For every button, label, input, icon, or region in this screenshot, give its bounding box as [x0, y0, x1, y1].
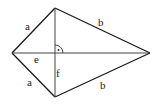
label-b-upper: b — [98, 16, 104, 28]
side-upper-right — [55, 8, 150, 53]
label-a-upper: a — [25, 20, 30, 32]
label-f: f — [56, 67, 60, 79]
right-angle-dot — [58, 49, 60, 51]
label-e: e — [34, 53, 39, 65]
right-angle-arc — [55, 45, 63, 53]
label-b-lower: b — [100, 79, 106, 91]
label-a-lower: a — [27, 76, 32, 88]
kite-diagram: a a b b e f — [0, 0, 161, 104]
side-upper-left — [12, 8, 55, 53]
